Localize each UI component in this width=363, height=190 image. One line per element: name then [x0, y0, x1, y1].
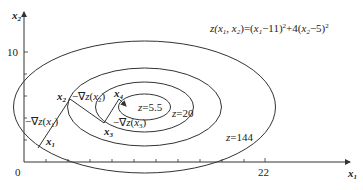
origin-label: 0: [15, 166, 21, 178]
x-tick-label-22: 22: [258, 166, 269, 178]
point-label-x2: x2: [56, 90, 67, 104]
steepest-descent-diagram: z(x1, x2)=(x1−11)2+4(x2−5)2 x2 x1 0 22 1…: [0, 0, 363, 190]
y-tick-label-10: 10: [7, 46, 19, 58]
title-formula: z(x1, x2)=(x1−11)2+4(x2−5)2: [209, 22, 329, 36]
contour-label-144: z=144: [225, 131, 253, 143]
contour-label-5.5: z=5.5: [137, 101, 163, 113]
gradient-label-x1: −∇z(x1): [25, 115, 59, 129]
gradient-label-x3: −∇z(x3): [113, 116, 147, 130]
x-ticks: [46, 158, 265, 162]
y-axis-label: x2: [11, 9, 22, 23]
x-axis-label: x1: [347, 167, 357, 181]
point-label-x3: x3: [103, 125, 114, 139]
point-label-x1: x1: [45, 135, 55, 149]
point-label-x4: x4: [113, 87, 124, 101]
gradient-label-x2: −∇z(x2): [72, 90, 106, 104]
contour-label-20: z=20: [171, 107, 194, 119]
